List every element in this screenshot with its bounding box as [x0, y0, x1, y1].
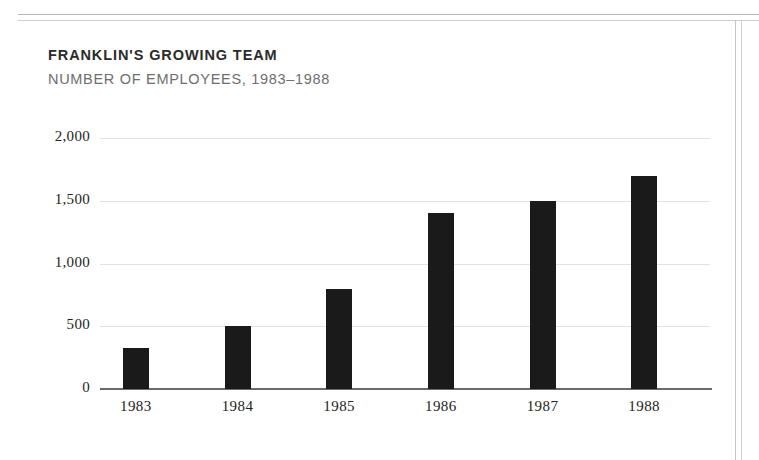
bar-1987 — [530, 201, 556, 389]
x-axis-tick-label: 1984 — [193, 398, 283, 415]
bar-1985 — [326, 289, 352, 389]
x-axis-tick-label: 1983 — [91, 398, 181, 415]
bar-chart: 05001,0001,5002,000 19831984198519861987… — [0, 0, 759, 460]
x-axis-tick-label: 1988 — [599, 398, 689, 415]
x-axis-tick-label: 1987 — [498, 398, 588, 415]
bar-1984 — [225, 326, 251, 389]
x-axis-tick-label: 1985 — [294, 398, 384, 415]
gridline — [100, 264, 710, 265]
bar-1988 — [631, 176, 657, 389]
bar-1986 — [428, 213, 454, 389]
y-axis-tick-label: 2,000 — [20, 128, 90, 145]
y-axis-tick-label: 1,500 — [20, 191, 90, 208]
gridline — [100, 138, 710, 139]
gridline — [100, 201, 710, 202]
y-axis-tick-label: 0 — [20, 379, 90, 396]
x-axis-line — [100, 388, 712, 390]
y-axis-tick-label: 1,000 — [20, 254, 90, 271]
gridline — [100, 326, 710, 327]
bar-1983 — [123, 348, 149, 389]
y-axis-tick-label: 500 — [20, 316, 90, 333]
page-canvas: FRANKLIN'S GROWING TEAM NUMBER OF EMPLOY… — [0, 0, 759, 460]
x-axis-tick-label: 1986 — [396, 398, 486, 415]
